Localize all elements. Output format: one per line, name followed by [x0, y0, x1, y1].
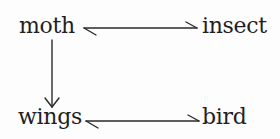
edge-moth-insect	[84, 22, 197, 35]
edges	[0, 0, 280, 139]
edge-moth-wings	[45, 40, 59, 107]
edge-wings-bird	[86, 115, 199, 128]
